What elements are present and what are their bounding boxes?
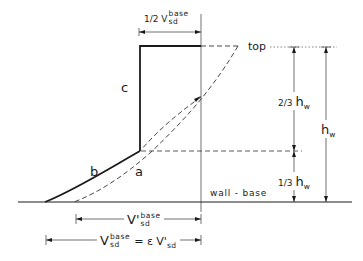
v-base-main: V [100,233,109,248]
v-base-label: Vbasesd= ε V'sd [97,232,180,248]
curve-a-label: a [135,165,143,178]
half-v-label: 1/2 Vbasesd [143,9,190,25]
arrow-right-icon [195,30,201,34]
curve-b-label: b [90,165,98,178]
one-third-prefix: 1/3 [278,178,292,188]
two-thirds-h: h [295,94,303,109]
two-thirds-prefix: 2/3 [278,98,292,108]
wall-base-label: wall - base [210,189,267,198]
curve-c-label: c [121,81,128,94]
one-third-w: w [304,182,311,191]
v-prime-base-label: V'basesd [124,211,164,227]
hw-h: h [321,122,329,137]
curve-c-envelope [140,46,201,151]
shear-envelope-diagram [0,0,363,261]
v-base-equals: = ε V' [134,235,167,248]
arrow-left-icon [139,30,145,34]
v-base-sub: sd [110,241,130,248]
curve-a [74,46,238,202]
arrow-mid-icon [194,96,201,102]
v-prime-sub: sd [140,220,160,227]
one-third-hw-label: 1/3hw [278,172,310,190]
two-thirds-hw-label: 2/3hw [278,92,310,110]
curve-dashed-inner [141,97,201,150]
hw-w: w [329,130,336,139]
top-label: top [248,41,266,52]
two-thirds-w: w [304,102,311,111]
hw-label: hw [321,120,336,138]
v-base-equals-sub: sd [167,241,177,250]
half-v-prefix: 1/2 V [144,14,168,24]
one-third-h: h [295,174,303,189]
half-v-sub: sd [169,18,189,25]
v-prime-main: V' [127,212,139,227]
